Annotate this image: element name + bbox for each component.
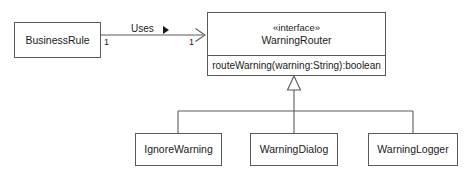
class-name-ignorewarning: IgnoreWarning: [144, 143, 212, 156]
class-name-warningdialog: WarningDialog: [260, 143, 328, 156]
class-box-ignorewarning[interactable]: IgnoreWarning: [135, 133, 222, 166]
association-direction-triangle-icon: [163, 26, 169, 34]
association-label-uses: Uses: [131, 23, 154, 35]
class-name-businessrule: BusinessRule: [25, 34, 89, 47]
class-box-warninglogger[interactable]: WarningLogger: [368, 133, 458, 166]
interface-stereotype: «interface»: [273, 22, 320, 34]
interface-operations-compartment: routeWarning(warning:String):boolean: [208, 56, 385, 75]
uml-class-diagram: BusinessRule «interface» WarningRouter r…: [0, 0, 470, 172]
class-box-warningdialog[interactable]: WarningDialog: [250, 133, 338, 166]
generalization-triangle-icon: [288, 76, 301, 90]
interface-name-warningrouter: WarningRouter: [261, 34, 331, 47]
class-box-businessrule[interactable]: BusinessRule: [14, 22, 101, 58]
multiplicity-target: 1: [189, 37, 194, 48]
interface-box-warningrouter[interactable]: «interface» WarningRouter routeWarning(w…: [207, 12, 386, 76]
operation-routewarning: routeWarning(warning:String):boolean: [212, 59, 381, 72]
class-name-warninglogger: WarningLogger: [377, 143, 448, 156]
association-arrowhead-icon: [196, 29, 206, 42]
multiplicity-source: 1: [104, 37, 109, 48]
interface-header: «interface» WarningRouter: [208, 13, 385, 56]
